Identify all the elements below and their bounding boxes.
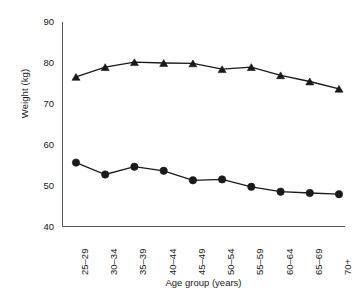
data-point-marker [335, 85, 343, 92]
x-tick-label: 55–59 [255, 215, 265, 275]
x-tick-label: 60–64 [285, 215, 295, 275]
data-point-marker [102, 171, 109, 178]
data-point-marker [248, 183, 255, 190]
data-point-marker [160, 167, 167, 174]
plot-area [62, 22, 345, 227]
y-tick-label: 90 [28, 17, 54, 27]
data-point-marker [218, 176, 225, 183]
x-tick-label: 50–54 [226, 215, 236, 275]
y-tick-label: 80 [28, 58, 54, 68]
series-line-2 [76, 163, 339, 195]
y-axis-tick-labels: 405060708090 [28, 0, 54, 296]
data-point-marker [131, 163, 138, 170]
weight-by-age-line-chart: Weight (kg) 405060708090 25–2930–3435–39… [0, 0, 355, 296]
x-tick-label: 35–39 [138, 215, 148, 275]
x-axis-tick-labels: 25–2930–3435–3940–4445–4950–5455–5960–64… [62, 231, 345, 275]
x-tick-label: 70+ [343, 215, 353, 275]
y-tick-label: 70 [28, 99, 54, 109]
x-tick-label: 45–49 [197, 215, 207, 275]
data-point-marker [335, 191, 342, 198]
x-tick-label: 65–69 [314, 215, 324, 275]
axis-spine [63, 22, 346, 227]
y-tick-label: 60 [28, 140, 54, 150]
x-axis-title: Age group (years) [62, 277, 345, 288]
data-point-marker [72, 159, 79, 166]
series-line-1 [76, 62, 339, 89]
x-tick-label: 30–34 [109, 215, 119, 275]
x-tick-label: 25–29 [80, 215, 90, 275]
y-tick-label: 40 [28, 222, 54, 232]
data-point-marker [72, 74, 80, 81]
data-point-marker [306, 189, 313, 196]
x-tick-label: 40–44 [168, 215, 178, 275]
chart-svg [62, 22, 345, 227]
data-point-marker [189, 177, 196, 184]
data-point-marker [277, 188, 284, 195]
y-tick-label: 50 [28, 181, 54, 191]
